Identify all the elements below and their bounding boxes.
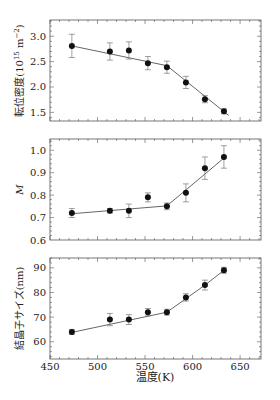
data-point [107,208,113,214]
y-tick-label: 3.0 [30,31,46,42]
data-point [126,317,132,323]
data-point [164,309,170,315]
data-point [221,154,227,160]
y-tick-label: 70 [33,312,46,323]
axes-frame [50,139,261,240]
data-point [145,309,151,315]
panel-dislocation-density: 1.52.02.53.0転位密度(1015 m−2) [13,20,261,121]
panel-m-parameter: 0.60.70.80.91.0M [14,139,261,246]
y-tick-label: 2.5 [30,56,46,67]
data-point [164,203,170,209]
y-tick-label: 0.9 [30,167,46,178]
data-point [69,210,75,216]
y-tick-label: 0.8 [30,190,46,201]
data-point [145,194,151,200]
data-point [145,60,151,66]
data-point [221,108,227,114]
y-axis-label: M [14,184,25,196]
chart-canvas: 1.52.02.53.0転位密度(1015 m−2) 0.60.70.80.91… [0,0,280,400]
axes-frame [50,20,261,121]
data-point [183,294,189,300]
figure: 1.52.02.53.0転位密度(1015 m−2) 0.60.70.80.91… [0,0,280,400]
panel-crystallite-size: 60708090結晶子サイズ(nm) [13,258,261,359]
x-tick-label: 500 [88,361,107,372]
x-tick-label: 450 [40,361,59,372]
y-tick-label: 0.6 [30,235,46,246]
x-tick-label: 600 [183,361,202,372]
y-tick-label: 60 [33,336,46,347]
y-tick-label: 2.0 [30,81,46,92]
data-point [202,165,208,171]
data-point [107,48,113,54]
data-point [126,47,132,53]
data-point [221,267,227,273]
fit-line [72,270,224,332]
y-tick-label: 1.5 [30,107,46,118]
y-axis-label: 結晶子サイズ(nm) [13,267,25,351]
y-tick-label: 0.7 [30,212,46,223]
y-tick-label: 90 [33,262,46,273]
data-point [126,208,132,214]
data-point [202,282,208,288]
data-point [183,190,189,196]
data-point [69,329,75,335]
x-axis-label: 温度(K) [136,370,175,384]
axes-frame [50,258,261,359]
y-tick-label: 1.0 [30,145,46,156]
data-point [69,43,75,49]
data-point [183,79,189,85]
y-axis-label: 転位密度(1015 m−2) [13,24,25,117]
fit-line [72,158,224,214]
data-point [107,317,113,323]
y-tick-label: 80 [33,287,46,298]
data-point [202,96,208,102]
data-point [164,64,170,70]
x-tick-label: 650 [231,361,250,372]
